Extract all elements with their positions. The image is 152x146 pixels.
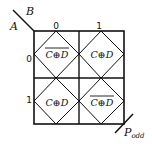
cell-expr-11: C⊕D bbox=[91, 97, 114, 108]
row-header-1: 1 bbox=[26, 95, 32, 105]
cell-expr-01: C⊕D bbox=[91, 49, 114, 60]
cell-expr-00: C⊕D bbox=[46, 49, 69, 60]
output-label: Podd bbox=[123, 126, 145, 140]
row-variable-label: A bbox=[9, 20, 18, 33]
column-header-1: 1 bbox=[96, 21, 102, 31]
column-header-0: 0 bbox=[53, 21, 59, 31]
grid bbox=[34, 31, 124, 124]
karnaugh-map: B A 0 1 0 1 C⊕D C⊕D C⊕D C⊕D Podd bbox=[0, 0, 152, 146]
row-header-0: 0 bbox=[26, 54, 32, 64]
cell-expr-10: C⊕D bbox=[46, 97, 69, 108]
column-variable-label: B bbox=[25, 5, 34, 18]
